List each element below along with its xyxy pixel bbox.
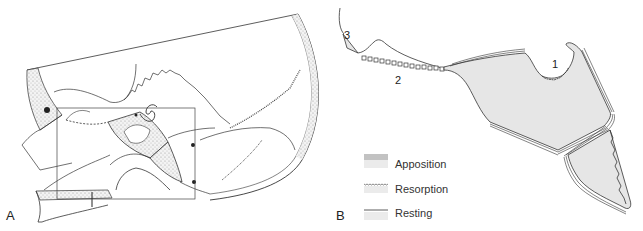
- legend-label-apposition: Apposition: [395, 158, 446, 170]
- legend-resorption-swatch: [364, 184, 388, 193]
- remodeling-schematic: [320, 0, 643, 231]
- region-label-1: 1: [552, 58, 558, 70]
- legend-apposition-swatch: [364, 155, 388, 168]
- skull-drawing: [0, 0, 330, 231]
- region-label-3: 3: [344, 29, 350, 41]
- region-label-2: 2: [395, 74, 401, 86]
- legend-label-resting: Resting: [395, 207, 432, 219]
- legend-label-resorption: Resorption: [395, 183, 448, 195]
- panel-a-skull: A: [0, 0, 330, 231]
- legend-resting-swatch: [364, 210, 388, 220]
- panel-b-remodeling: 3 2 1 Apposition Resorption Resting B: [320, 0, 643, 231]
- panel-label-a: A: [6, 208, 15, 223]
- suture-squares: [362, 56, 444, 71]
- panel-label-b: B: [336, 208, 345, 223]
